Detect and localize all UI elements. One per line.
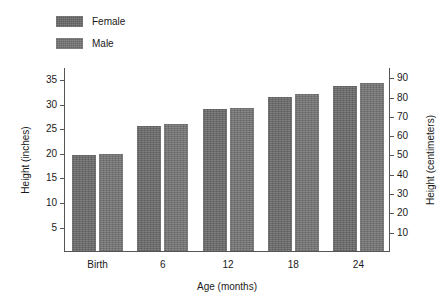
y-left-tick-label: 10 — [46, 198, 57, 208]
plot-area: 5101520253035 102030405060708090 Birth61… — [64, 68, 390, 252]
bar-male-12 — [230, 108, 254, 251]
bar-chart-figure: Female Male 5101520253035 10203040506070… — [0, 0, 447, 306]
x-axis-tick-label: Birth — [87, 260, 108, 270]
y-right-tick-label: 90 — [397, 73, 408, 83]
x-axis-title: Age (months) — [64, 281, 390, 292]
bar-female-24 — [333, 86, 357, 251]
y-right-tick-label: 20 — [397, 208, 408, 218]
y-left-tick-label: 30 — [46, 100, 57, 110]
y-axis-left-title: Height (inches) — [20, 126, 31, 193]
bar-fill — [203, 109, 227, 251]
legend-swatch-male — [56, 38, 83, 49]
y-right-tick — [389, 213, 394, 214]
x-axis-tick-label: 12 — [222, 260, 233, 270]
legend-swatch-female — [56, 16, 83, 27]
bar-female-6 — [137, 126, 161, 251]
legend-label-female: Female — [92, 16, 125, 27]
bar-fill — [360, 83, 384, 251]
y-left-tick-label: 35 — [46, 75, 57, 85]
legend-item-female: Female — [56, 14, 125, 29]
bar-female-birth — [72, 155, 96, 251]
y-left-tick-label: 15 — [46, 173, 57, 183]
x-axis-tick-label: 18 — [288, 260, 299, 270]
bar-female-18 — [268, 97, 292, 251]
legend-item-male: Male — [56, 36, 125, 51]
legend-label-male: Male — [92, 38, 114, 49]
y-right-tick-label: 10 — [397, 228, 408, 238]
y-right-tick — [389, 175, 394, 176]
y-right-tick — [389, 78, 394, 79]
bar-male-18 — [295, 94, 319, 251]
y-right-tick-label: 30 — [397, 189, 408, 199]
bar-fill — [295, 94, 319, 251]
bar-male-6 — [164, 124, 188, 251]
y-axis-right-title: Height (centimeters) — [425, 115, 436, 205]
y-right-tick-label: 70 — [397, 112, 408, 122]
bar-fill — [99, 154, 123, 251]
bar-male-24 — [360, 83, 384, 251]
x-axis-tick-label: 24 — [353, 260, 364, 270]
bar-female-12 — [203, 109, 227, 251]
y-right-tick — [389, 117, 394, 118]
y-right-tick-label: 50 — [397, 150, 408, 160]
y-left-tick-label: 5 — [51, 223, 57, 233]
bar-series-container — [65, 68, 389, 251]
y-right-tick-label: 40 — [397, 170, 408, 180]
y-right-tick — [389, 98, 394, 99]
bar-fill — [333, 86, 357, 251]
y-right-tick — [389, 233, 394, 234]
y-left-tick-label: 20 — [46, 149, 57, 159]
bar-fill — [268, 97, 292, 251]
y-right-tick — [389, 194, 394, 195]
bar-fill — [72, 155, 96, 251]
y-right-tick-label: 60 — [397, 131, 408, 141]
bar-male-birth — [99, 154, 123, 251]
bar-fill — [230, 108, 254, 251]
chart-legend: Female Male — [56, 14, 125, 58]
y-right-tick — [389, 136, 394, 137]
bar-fill — [137, 126, 161, 251]
y-right-tick-label: 80 — [397, 93, 408, 103]
y-left-tick-label: 25 — [46, 124, 57, 134]
y-right-tick — [389, 155, 394, 156]
bar-fill — [164, 124, 188, 251]
x-axis-tick-label: 6 — [160, 260, 166, 270]
